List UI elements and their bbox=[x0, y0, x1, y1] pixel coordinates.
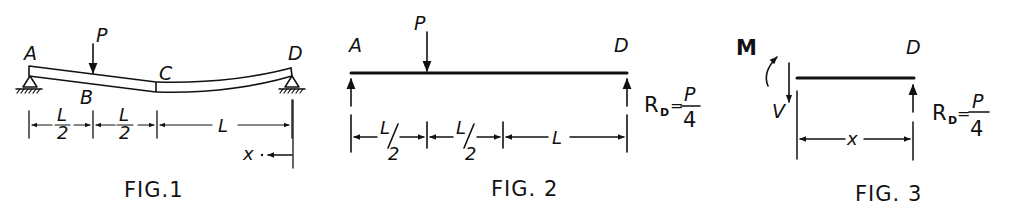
load-label: P bbox=[96, 24, 108, 46]
dim-num-1: L bbox=[380, 117, 390, 138]
point-label-d: D bbox=[288, 42, 303, 64]
point-label-b: B bbox=[80, 86, 93, 108]
dim-num-2: L bbox=[456, 117, 466, 138]
shear-label: V bbox=[772, 100, 787, 122]
moment-label: M bbox=[736, 36, 757, 60]
figure-caption-3: FIG. 3 bbox=[855, 182, 922, 206]
reaction-symbol: R bbox=[644, 93, 659, 117]
figure-1: P A B C D L 2 L 2 L bbox=[16, 24, 305, 202]
dim-x-label: x bbox=[846, 128, 858, 149]
denominator: 4 bbox=[970, 117, 983, 141]
point-label-d: D bbox=[906, 36, 921, 58]
dim-den-2: 2 bbox=[465, 143, 476, 164]
reaction-symbol: R bbox=[932, 101, 947, 125]
figure-caption-1: FIG.1 bbox=[124, 178, 184, 202]
point-label-d: D bbox=[614, 34, 629, 56]
figure-caption-2: FIG. 2 bbox=[491, 177, 558, 201]
dim-full: L bbox=[552, 127, 562, 148]
reaction-formula: R D = P 4 bbox=[644, 83, 700, 132]
numerator: P bbox=[684, 83, 696, 105]
load-label: P bbox=[414, 12, 426, 34]
reaction-formula: R D = P 4 bbox=[932, 90, 989, 141]
dim-den-1: 2 bbox=[388, 143, 399, 164]
reaction-subscript: D bbox=[948, 114, 957, 127]
point-label-a: A bbox=[347, 34, 362, 56]
x-label: x bbox=[242, 143, 254, 164]
x-coordinate-arrow: x bbox=[242, 100, 293, 168]
dim-den-2: 2 bbox=[119, 122, 130, 143]
dim-den-1: 2 bbox=[57, 122, 68, 143]
moment-arrow-icon bbox=[766, 57, 777, 86]
load-p-arrow: P bbox=[93, 24, 108, 73]
equals-sign: = bbox=[957, 104, 970, 123]
beam-segment-cd bbox=[157, 68, 292, 92]
pin-support-a bbox=[16, 76, 42, 93]
dimension-line: x bbox=[797, 91, 913, 160]
point-label-a: A bbox=[22, 42, 37, 64]
denominator: 4 bbox=[683, 108, 696, 132]
dimension-line: L 2 L 2 L bbox=[29, 100, 292, 143]
point-label-c: C bbox=[159, 62, 173, 84]
dim-full: L bbox=[218, 115, 228, 136]
figure-3: M D V x R D = P 4 FIG. 3 bbox=[736, 36, 989, 206]
numerator: P bbox=[972, 90, 984, 112]
beam-figures: P A B C D L 2 L 2 L bbox=[0, 0, 1019, 221]
dimension-line: L 2 L 2 L bbox=[351, 115, 627, 164]
reaction-subscript: D bbox=[660, 106, 669, 119]
load-p-arrow: P bbox=[414, 12, 427, 71]
figure-2: P A D L 2 L 2 L R D bbox=[347, 12, 700, 201]
